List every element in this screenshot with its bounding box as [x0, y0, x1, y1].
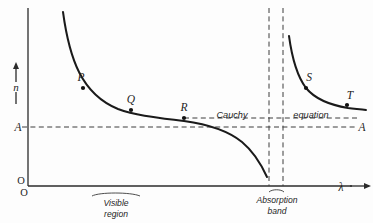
- y-axis-label: n: [13, 81, 19, 93]
- right-arrow-icon: [364, 183, 371, 189]
- visible-region-label-line1: Visible: [103, 198, 128, 208]
- y-origin-label: O: [17, 175, 25, 186]
- reference-lines-group: [22, 8, 358, 186]
- marker-t: [345, 103, 349, 107]
- up-arrow-icon: [13, 62, 19, 69]
- absorption-band-label-line2: band: [267, 206, 286, 216]
- normal-dispersion-curve: [63, 12, 267, 177]
- region-braces-group: [92, 190, 284, 196]
- point-label-t: T: [347, 89, 355, 101]
- x-origin-label: O: [20, 187, 28, 198]
- dispersion-figure: n O O λ A A P Q R S T Cauchy equation Vi…: [0, 0, 373, 223]
- labels-group: n O O λ A A P Q R S T Cauchy equation Vi…: [13, 71, 366, 219]
- cauchy-equation-part1: Cauchy: [216, 110, 249, 120]
- absorption-band-brace: [269, 190, 284, 192]
- x-axis-label: λ: [338, 181, 344, 193]
- absorption-band-label-line1: Absorption: [255, 195, 297, 205]
- visible-region-brace: [92, 193, 140, 196]
- visible-region-label-line2: region: [104, 209, 128, 219]
- asymptote-right-label: A: [357, 121, 366, 133]
- curves-group: [63, 12, 366, 177]
- point-label-s: S: [306, 71, 312, 83]
- asymptote-left-label: A: [13, 121, 22, 133]
- dispersion-chart: n O O λ A A P Q R S T Cauchy equation Vi…: [0, 0, 373, 223]
- cauchy-equation-part2: equation: [293, 110, 328, 120]
- point-label-r: R: [179, 101, 187, 113]
- marker-r: [182, 116, 186, 120]
- marker-s: [304, 86, 308, 90]
- anomalous-dispersion-curve: [289, 36, 366, 110]
- marker-p: [81, 86, 85, 90]
- marker-q: [129, 108, 133, 112]
- point-label-p: P: [76, 71, 84, 83]
- point-label-q: Q: [127, 93, 136, 105]
